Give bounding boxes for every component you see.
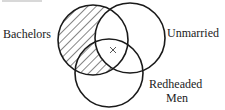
venn-diagram: Bachelors Unmarried Redheaded Men <box>0 0 225 110</box>
label-unmarried: Unmarried <box>167 26 219 40</box>
label-bachelors: Bachelors <box>3 27 51 41</box>
shaded-region-bachelors-not-unmarried <box>0 0 225 110</box>
cropped-text-remnant <box>2 0 42 2</box>
label-men: Men <box>166 91 188 105</box>
label-redheaded: Redheaded <box>149 77 202 91</box>
